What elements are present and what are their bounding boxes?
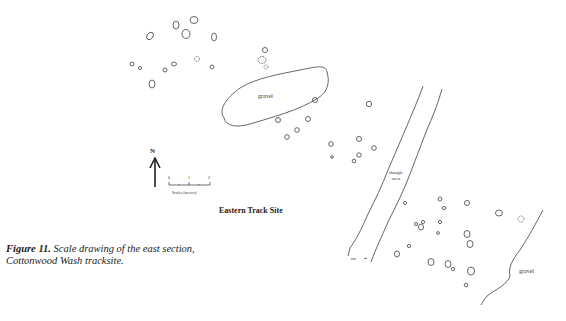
scale-bar [169, 182, 210, 185]
caption-label: Figure 11. [6, 243, 51, 254]
site-label: Eastern Track Site [219, 206, 283, 215]
gravel-label-upper: gravel [258, 93, 273, 99]
figure-caption: Figure 11. Scale drawing of the east sec… [6, 243, 206, 267]
north-arrow-icon [150, 158, 160, 187]
north-label: N [150, 147, 155, 155]
track-cluster-lower-right [395, 197, 525, 287]
shingle-area-label: shingle area [385, 170, 407, 182]
tracksite-map [0, 0, 566, 321]
gravel-boundary-lower-right [481, 210, 543, 305]
gravel-patch-upper [222, 67, 328, 126]
scale-tick-0: 0 [168, 175, 170, 180]
scale-tick-1: 1 [188, 175, 190, 180]
track-cluster-middle [276, 98, 377, 163]
gravel-label-lower-right: gravel [519, 268, 534, 274]
track-cluster-upper-left [130, 17, 268, 89]
scale-tick-2: 2 [208, 175, 210, 180]
scale-label: Scales (meters) [172, 190, 197, 195]
